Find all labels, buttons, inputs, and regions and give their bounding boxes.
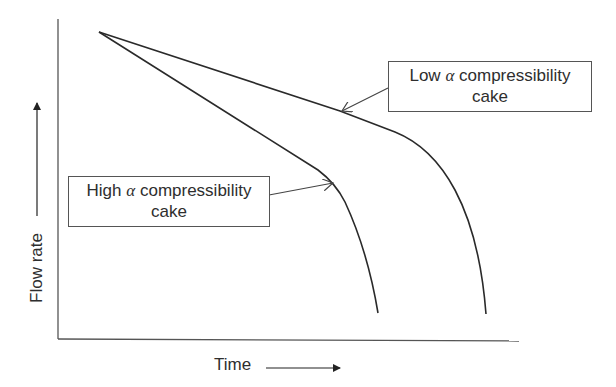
high-annotation-arrow: [269, 183, 333, 195]
low-label-line1: Low α compressibility: [389, 65, 591, 86]
low-compressibility-label: Low α compressibility cake: [388, 61, 592, 112]
high-word: High: [87, 181, 122, 200]
high-compressibility-label: High α compressibility cake: [68, 176, 270, 227]
x-axis: [58, 339, 519, 341]
high-label-line1: High α compressibility: [69, 180, 269, 201]
low-label-line2: cake: [389, 86, 591, 107]
high-compressibility-curve: [99, 32, 378, 313]
y-axis-label: Flow rate: [27, 233, 47, 303]
alpha-symbol: α: [126, 181, 135, 200]
compressibility-word: compressibility: [140, 181, 251, 200]
high-label-line2: cake: [69, 201, 269, 222]
x-axis-label: Time: [214, 355, 251, 375]
alpha-symbol: α: [445, 66, 454, 85]
low-annotation-arrow: [342, 88, 388, 111]
low-word: Low: [409, 66, 440, 85]
compressibility-word: compressibility: [459, 66, 570, 85]
